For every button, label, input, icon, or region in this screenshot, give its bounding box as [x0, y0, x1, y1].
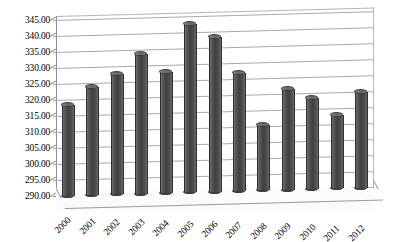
bar-body [184, 24, 197, 193]
bar[interactable] [233, 70, 246, 191]
bar-body [233, 73, 246, 191]
x-axis-tick-labels: 2000200120022003200420052006200720082009… [56, 198, 386, 242]
x-axis-tick-label: 2007 [224, 220, 244, 240]
y-axis-tick-label: 330.00 [2, 63, 50, 73]
y-axis-tick-label: 340.00 [2, 31, 50, 41]
bar-body [331, 115, 344, 189]
bar-body [135, 54, 148, 194]
bar-top-ellipse [354, 89, 367, 94]
bar[interactable] [184, 21, 197, 193]
bar-top-ellipse [61, 102, 74, 107]
bar-body [86, 87, 99, 195]
x-axis-tick-label: 2008 [249, 221, 269, 241]
y-axis-tick-label: 335.00 [2, 47, 50, 57]
y-axis-tick-label: 320.00 [2, 95, 50, 105]
bar[interactable] [62, 102, 75, 196]
bar[interactable] [257, 122, 270, 191]
bar-top-ellipse [256, 122, 269, 127]
y-axis-tick-label: 310.00 [2, 127, 50, 137]
bar-top-ellipse [134, 51, 147, 56]
x-axis-tick-label: 2005 [175, 219, 195, 239]
y-axis-tick-labels: 345.00 340.00 335.00 330.00 325.00 320.0… [0, 0, 50, 242]
x-axis-tick-label: 2010 [297, 222, 317, 242]
bar-top-ellipse [330, 112, 343, 117]
plot-area: 345.00 340.00 335.00 330.00 325.00 320.0… [0, 0, 396, 242]
x-axis-tick-label: 2003 [126, 217, 146, 237]
bar-body [355, 92, 368, 188]
x-axis-tick-label: 2000 [53, 215, 73, 235]
x-axis-tick-label: 2004 [151, 218, 171, 238]
bar[interactable] [355, 89, 368, 188]
bar-body [209, 37, 222, 192]
y-axis-tick-label: 315.00 [2, 111, 50, 121]
bar[interactable] [306, 95, 319, 189]
bar-top-ellipse [305, 95, 318, 100]
bar[interactable] [135, 51, 148, 194]
y-axis-tick-label: 290.00 [2, 191, 50, 201]
x-axis-tick-label: 2012 [346, 223, 366, 242]
x-axis-tick-label: 2009 [273, 221, 293, 241]
bar-body [282, 89, 295, 189]
x-axis-tick-label: 2006 [200, 219, 220, 239]
bar-top-ellipse [208, 34, 221, 39]
y-axis-tick-label: 300.00 [2, 159, 50, 169]
bar[interactable] [331, 112, 344, 189]
bar[interactable] [111, 71, 124, 195]
x-axis-tick-label: 2011 [322, 223, 342, 242]
bar-body [306, 98, 319, 189]
bar-body [62, 105, 75, 196]
bar-body [257, 125, 270, 191]
bar[interactable] [209, 34, 222, 192]
x-axis-tick-label: 2002 [102, 217, 122, 237]
bar[interactable] [282, 86, 295, 189]
bar[interactable] [86, 84, 99, 195]
y-axis-tick-label: 345.00 [2, 15, 50, 25]
x-axis-tick-label: 2001 [77, 216, 97, 236]
bar-top-ellipse [110, 71, 123, 76]
y-axis-tick-label: 325.00 [2, 79, 50, 89]
bar-chart: 345.00 340.00 335.00 330.00 325.00 320.0… [0, 0, 396, 242]
y-axis-tick-label: 295.00 [2, 175, 50, 185]
y-axis-tick-label: 305.00 [2, 143, 50, 153]
bar-top-ellipse [159, 69, 172, 74]
bar[interactable] [160, 69, 173, 193]
bar-top-ellipse [183, 21, 196, 26]
bar-body [111, 74, 124, 195]
bar-body [160, 72, 173, 193]
